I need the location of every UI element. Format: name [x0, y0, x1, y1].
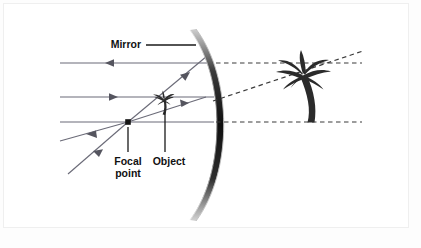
figure-root: Mirror Focal point Object [0, 0, 421, 248]
focal-point-label-line1: Focal [114, 155, 142, 167]
mirror-label: Mirror [111, 38, 141, 50]
focal-point-dot [125, 119, 131, 125]
ray-diagram-svg: Mirror Focal point Object [0, 0, 421, 248]
focal-point-label-line2: point [115, 167, 141, 179]
object-label: Object [153, 155, 186, 167]
